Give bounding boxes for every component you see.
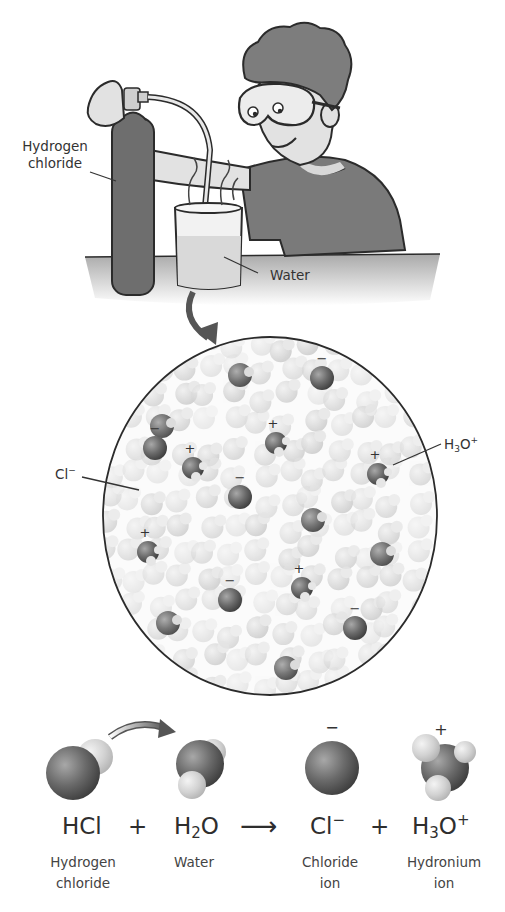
- water-molecule-bg: [400, 377, 425, 401]
- name-hydrogen-chloride: Hydrogen chloride: [33, 852, 133, 894]
- formula-hcl: HCl: [62, 812, 102, 840]
- water-molecule-bg: [115, 641, 140, 665]
- water-molecule-bg: [378, 664, 403, 688]
- water-molecule-bg: [116, 331, 141, 355]
- cylinder-label-line1: Hydrogen: [18, 138, 92, 155]
- beaker-label: Water: [270, 267, 310, 284]
- water-molecule: [176, 739, 226, 799]
- svg-text:+: +: [268, 416, 279, 431]
- water-molecule-bg: [98, 356, 123, 380]
- formula-cl-minus: Cl−: [310, 812, 345, 840]
- hydronium-ion-molecule: +: [412, 720, 476, 801]
- cylinder-label: Hydrogen chloride: [18, 138, 92, 172]
- equation-molecules: − +: [46, 718, 476, 801]
- person-arm: [150, 150, 250, 190]
- hcl-molecule: [46, 739, 113, 800]
- svg-text:+: +: [185, 441, 196, 456]
- water-molecule-bg: [93, 616, 118, 640]
- water-molecule-bg: [94, 333, 119, 357]
- name-hydronium-ion: Hydronium ion: [394, 852, 494, 894]
- svg-text:−: −: [150, 421, 161, 436]
- svg-text:+: +: [140, 525, 151, 540]
- water-molecule-bg: [407, 330, 432, 354]
- plus-sign-1: +: [128, 812, 147, 840]
- svg-text:−: −: [325, 718, 338, 737]
- water-molecule-bg: [403, 403, 428, 427]
- water-molecule-bg: [149, 671, 174, 695]
- plus-sign-2: +: [370, 812, 389, 840]
- chloride-ion-label: Cl−: [55, 466, 76, 482]
- chloride-ion-molecule: −: [305, 718, 359, 795]
- formula-h2o: H2O: [174, 812, 219, 840]
- gas-cylinder: [112, 118, 154, 295]
- name-chloride-ion: Chloride ion: [280, 852, 380, 894]
- water-molecule-bg: [115, 622, 140, 646]
- water-molecule-bg: [99, 415, 124, 439]
- water-molecule-bg: [140, 644, 165, 668]
- water-molecule-bg: [97, 386, 122, 410]
- water-molecule-bg: [93, 597, 118, 621]
- water-molecule-bg: [387, 331, 412, 355]
- water-molecule-bg: [140, 337, 165, 361]
- hydronium-ion-label: H3O+: [444, 436, 478, 452]
- svg-text:−: −: [225, 573, 236, 588]
- svg-text:−: −: [235, 470, 246, 485]
- name-water: Water: [144, 852, 244, 873]
- water-molecule-bg: [113, 382, 138, 406]
- diagram-artwork: −−−−−+++++ − +: [0, 0, 505, 912]
- formula-h3o-plus: H3O+: [412, 812, 470, 840]
- magnified-solution: −−−−−+++++: [82, 326, 441, 701]
- lab-scene: [85, 23, 440, 345]
- water-molecule-bg: [114, 364, 139, 388]
- water-molecule-bg: [171, 329, 196, 353]
- water-molecule-bg: [412, 637, 437, 661]
- svg-text:+: +: [294, 561, 305, 576]
- water-molecule-bg: [413, 364, 438, 388]
- water-molecule-bg: [356, 329, 381, 353]
- svg-text:+: +: [370, 447, 381, 462]
- cylinder-label-line2: chloride: [18, 155, 92, 172]
- svg-text:−: −: [317, 351, 328, 366]
- water-molecule-bg: [401, 664, 426, 688]
- hand: [88, 81, 124, 126]
- water-molecule-bg: [413, 611, 438, 635]
- water-molecule-bg: [124, 666, 149, 690]
- svg-text:−: −: [350, 601, 361, 616]
- svg-text:+: +: [434, 720, 447, 739]
- water-molecule-bg: [90, 645, 115, 669]
- water-molecule-bg: [91, 675, 116, 699]
- water-in-beaker: [177, 236, 241, 289]
- reaction-arrow: ⟶: [240, 812, 277, 840]
